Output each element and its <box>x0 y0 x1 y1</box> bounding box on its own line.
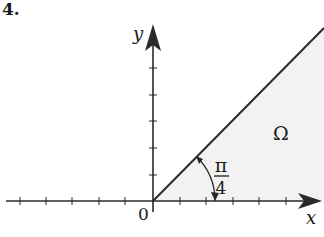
region-omega-label: Ω <box>273 122 289 144</box>
diagram: 4. π 4 Ω y x 0 <box>0 0 324 237</box>
origin-label: 0 <box>138 204 149 224</box>
y-axis-label: y <box>132 23 144 44</box>
angle-numerator: π <box>215 154 228 176</box>
angle-denominator: 4 <box>216 178 227 198</box>
problem-number: 4. <box>2 0 20 19</box>
x-axis-label: x <box>306 207 316 228</box>
